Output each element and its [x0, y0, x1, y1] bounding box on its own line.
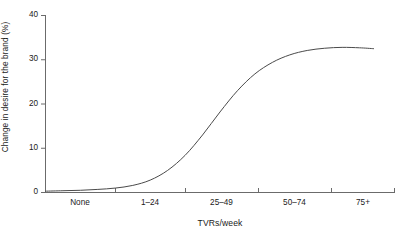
plot-area	[0, 0, 410, 236]
chart-container: Change in desire for the brand (%) 0 10 …	[0, 0, 410, 236]
data-series-line	[46, 47, 374, 191]
